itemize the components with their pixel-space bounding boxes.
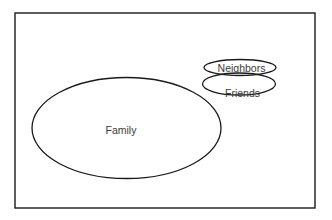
euler-diagram: Family Friends Neighbors xyxy=(0,0,332,220)
friends-label: Friends xyxy=(225,87,260,99)
set-family: Family xyxy=(32,78,221,179)
universe-frame xyxy=(15,13,315,208)
family-label: Family xyxy=(106,124,138,136)
set-friends: Friends xyxy=(203,73,276,99)
neighbors-label: Neighbors xyxy=(218,62,266,74)
set-neighbors: Neighbors xyxy=(204,60,276,76)
